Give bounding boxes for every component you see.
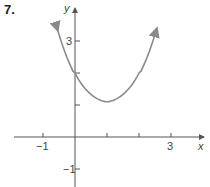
x-axis-label: x	[197, 140, 204, 152]
x-tick-label-3: 3	[167, 140, 173, 152]
parabola-curve	[57, 29, 156, 101]
y-tick-label-3: 3	[66, 35, 72, 47]
y-tick-label-neg1: −1	[63, 163, 76, 175]
y-axis-label: y	[63, 2, 71, 14]
x-tick-label-neg1: −1	[36, 140, 49, 152]
parabola-curve	[107, 30, 157, 105]
x-ticks	[43, 133, 171, 137]
parabola-curve	[56, 0, 157, 31]
parabola-graph: y x −1 3 3 −1	[0, 0, 210, 187]
y-ticks	[75, 41, 80, 169]
